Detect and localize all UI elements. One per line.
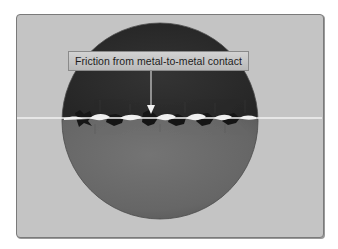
callout-label-text: Friction from metal-to-metal contact [75,55,242,67]
callout-label: Friction from metal-to-metal contact [68,51,249,71]
lower-metal-surface [60,118,260,223]
metal-contact-diagram [0,0,338,249]
